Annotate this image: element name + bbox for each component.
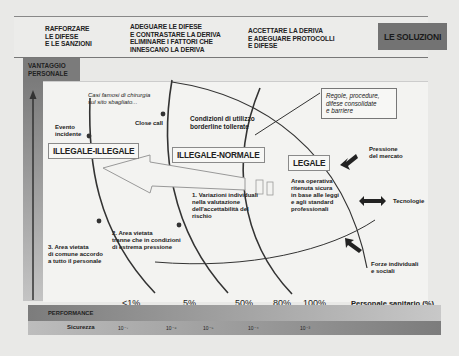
annotation-close-call: Close call: [135, 120, 163, 127]
annotation-variazioni: 1. Variazioni individuali nella valutazi…: [192, 192, 258, 220]
zone-illegale-illegale: ILLEGALE-ILLEGALE: [48, 143, 139, 159]
annotation-area-vietata-3: 3. Area vietata di comune accordo a tutt…: [48, 244, 103, 265]
safety-tick-4: 10⁻⁴: [248, 325, 259, 331]
social-arrow-icon: [345, 238, 362, 253]
annotation-area-vietata-2: 2. Area vietata tranne che in condizioni…: [112, 230, 181, 251]
annotation-evento-incidente: Evento incidente: [55, 124, 81, 138]
safety-tick-5: 10⁻³: [300, 325, 310, 331]
performance-label: PERFORMANCE: [48, 310, 93, 317]
annotation-area-operativa: Area operativa ritenuta sicura in base a…: [291, 178, 339, 213]
annotation-regole-box: Regole, procedure, difese consolidate e …: [321, 88, 397, 119]
force-pressione-mercato: Pressione del mercato: [369, 146, 403, 160]
annotation-condizioni: Condizioni di utilizzo borderline toller…: [190, 115, 255, 131]
zone-legale: LEGALE: [288, 155, 330, 171]
safety-tick-1: 10⁻⁷: [118, 325, 128, 331]
annotation-casi-famosi: Casi famosi di chirurgia sul sito sbagli…: [88, 92, 150, 106]
performance-band: PERFORMANCE: [28, 305, 441, 321]
safety-tick-2: 10⁻⁶: [166, 325, 177, 331]
up-arrow-icon: [30, 90, 37, 99]
force-tecnologie: Tecnologie: [393, 198, 424, 205]
force-individuali-sociali: Forze individuali e sociali: [371, 261, 418, 275]
sicurezza-band: Sicurezza: [28, 321, 441, 335]
zone-illegale-normale: ILLEGALE-NORMALE: [172, 147, 265, 163]
sicurezza-label: Sicurezza: [67, 324, 95, 331]
safety-tick-3: 10⁻⁵: [203, 325, 214, 331]
technology-arrow-icon: [359, 196, 386, 206]
pressure-arrow-icon: [340, 154, 358, 170]
